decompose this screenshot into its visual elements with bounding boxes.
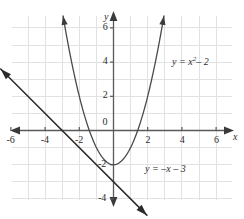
data-curves bbox=[1, 16, 166, 215]
axis-lines bbox=[10, 11, 234, 207]
y-tick-label-neg4: -4 bbox=[98, 193, 106, 203]
y-axis-arrow-up bbox=[110, 11, 118, 21]
parabola-equation-label: y = x2– 2 bbox=[172, 56, 209, 67]
y-tick-label-2: 2 bbox=[103, 90, 108, 100]
x-axis-label: x bbox=[233, 132, 237, 142]
x-tick-label-2: 2 bbox=[146, 135, 151, 145]
y-tick-label-4: 4 bbox=[103, 56, 108, 66]
origin-label: 0 bbox=[103, 117, 108, 127]
coordinate-plane bbox=[0, 0, 244, 219]
graph-figure: -6-4-20246-4-2246 x y y = x2– 2 y = –x –… bbox=[0, 0, 244, 219]
y-axis-label: y bbox=[104, 12, 108, 22]
y-tick-label-neg2: -2 bbox=[98, 159, 106, 169]
x-tick-label-neg4: -4 bbox=[41, 135, 49, 145]
line-equation-label: y = –x – 3 bbox=[145, 164, 186, 174]
gridlines bbox=[12, 16, 232, 200]
x-tick-label-4: 4 bbox=[180, 135, 185, 145]
y-tick-label-6: 6 bbox=[103, 22, 108, 32]
line-curve bbox=[1, 69, 147, 215]
x-tick-label-6: 6 bbox=[214, 135, 219, 145]
x-tick-label-neg2: -2 bbox=[75, 135, 83, 145]
x-tick-label-neg6: -6 bbox=[7, 135, 15, 145]
